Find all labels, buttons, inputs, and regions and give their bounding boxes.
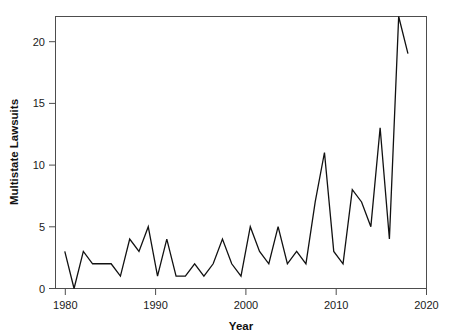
line-chart: 0 5 10 15 20 1980 1990 2000 2010 2020 Ye… <box>0 0 451 336</box>
y-axis-title: Multistate Lawsuits <box>8 99 20 205</box>
y-axis-tick-labels: 0 5 10 15 20 <box>33 36 45 295</box>
x-axis-tick-labels: 1980 1990 2000 2010 2020 <box>53 299 439 311</box>
y-axis-ticks <box>49 42 56 289</box>
x-tick-label-2000: 2000 <box>234 299 258 311</box>
x-axis-title: Year <box>229 320 254 332</box>
plot-frame <box>56 17 427 289</box>
y-tick-label-15: 15 <box>33 97 45 109</box>
y-tick-label-20: 20 <box>33 36 45 48</box>
data-series-line <box>65 17 408 289</box>
x-tick-label-2020: 2020 <box>414 299 438 311</box>
y-tick-label-10: 10 <box>33 159 45 171</box>
x-axis-ticks <box>65 289 426 296</box>
x-tick-label-2010: 2010 <box>324 299 348 311</box>
x-tick-label-1980: 1980 <box>53 299 77 311</box>
y-tick-label-0: 0 <box>39 283 45 295</box>
y-tick-label-5: 5 <box>39 221 45 233</box>
x-tick-label-1990: 1990 <box>143 299 167 311</box>
chart-figure: 0 5 10 15 20 1980 1990 2000 2010 2020 Ye… <box>0 0 451 336</box>
